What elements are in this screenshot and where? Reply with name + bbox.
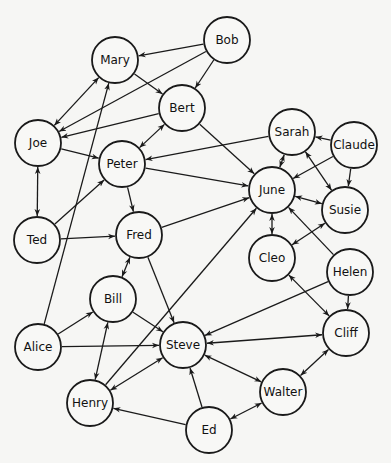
node-label: Ted <box>26 233 47 247</box>
edge-helen-steve <box>205 282 328 336</box>
node-label: Walter <box>264 385 303 399</box>
edge-peter-june <box>146 168 249 186</box>
node-bob: Bob <box>204 17 250 63</box>
node-susie: Susie <box>322 187 368 233</box>
edge-bert-june <box>200 124 255 174</box>
edge-ed-henry <box>113 408 185 424</box>
edge-june-susie <box>295 196 322 203</box>
edge-fred-bill <box>122 257 130 277</box>
edge-mary-joe <box>54 78 98 126</box>
node-ted: Ted <box>14 217 60 263</box>
edge-fred-steve <box>148 257 174 322</box>
edge-alice-bill <box>58 312 93 334</box>
node-label: Susie <box>329 203 361 217</box>
node-label: Fred <box>126 228 152 242</box>
node-label: Joe <box>28 136 47 150</box>
edge-ed-steve <box>190 368 202 407</box>
node-label: Cleo <box>259 251 285 265</box>
node-ed: Ed <box>186 407 232 453</box>
node-joe: Joe <box>15 120 61 166</box>
edge-ted-fred <box>61 236 115 239</box>
node-label: Mary <box>100 53 130 67</box>
edge-ted-peter <box>55 180 104 224</box>
node-walter: Walter <box>260 369 306 415</box>
node-label: Henry <box>72 396 108 410</box>
edge-joe-peter <box>61 149 98 158</box>
edge-bert-joe <box>61 114 158 138</box>
node-steve: Steve <box>160 322 206 368</box>
node-henry: Henry <box>67 380 113 426</box>
edge-bill-henry <box>95 322 108 379</box>
edge-steve-walter <box>205 355 262 382</box>
edge-susie-cleo <box>292 223 325 245</box>
node-label: Cliff <box>334 326 358 340</box>
edge-claude-sarah <box>315 137 330 140</box>
edge-bob-bert <box>195 60 214 88</box>
node-helen: Helen <box>327 249 373 295</box>
node-label: Bill <box>104 292 122 306</box>
node-label: Helen <box>333 265 368 279</box>
edge-joe-ted <box>37 167 38 216</box>
edge-cliff-steve <box>207 335 322 343</box>
node-label: Steve <box>166 338 200 352</box>
edge-alice-steve <box>62 345 159 346</box>
node-label: Ed <box>201 423 216 437</box>
edge-peter-fred <box>128 187 134 211</box>
node-label: Bob <box>215 33 238 47</box>
node-label: Alice <box>24 340 53 354</box>
node-sarah: Sarah <box>269 109 315 155</box>
node-bert: Bert <box>159 85 205 131</box>
node-bill: Bill <box>90 276 136 322</box>
node-claude: Claude <box>331 122 377 168</box>
node-label: Peter <box>106 157 137 171</box>
edge-sarah-june <box>280 155 284 168</box>
node-june: June <box>249 167 295 213</box>
edge-bob-mary <box>139 44 204 56</box>
node-cliff: Cliff <box>323 310 369 356</box>
edge-fred-june <box>162 198 250 228</box>
edge-ed-walter <box>230 403 261 419</box>
edge-cliff-walter <box>301 349 329 375</box>
edge-bert-peter <box>140 124 165 147</box>
edge-sarah-peter <box>146 136 269 159</box>
node-mary: Mary <box>92 37 138 83</box>
node-fred: Fred <box>116 212 162 258</box>
node-cleo: Cleo <box>249 235 295 281</box>
edge-sarah-susie <box>305 152 331 190</box>
edge-claude-susie <box>348 169 350 186</box>
edge-henry-steve <box>110 358 162 391</box>
node-alice: Alice <box>15 324 61 370</box>
edge-helen-cliff <box>348 296 349 309</box>
node-label: Sarah <box>275 125 310 139</box>
node-label: Bert <box>169 101 195 115</box>
edge-claude-june <box>293 157 333 179</box>
node-peter: Peter <box>99 141 145 187</box>
social-network-graph: MaryBobBertJoePeterSarahClaudeJuneSusieT… <box>0 0 391 463</box>
node-label: June <box>258 183 285 197</box>
node-label: Claude <box>333 138 375 152</box>
